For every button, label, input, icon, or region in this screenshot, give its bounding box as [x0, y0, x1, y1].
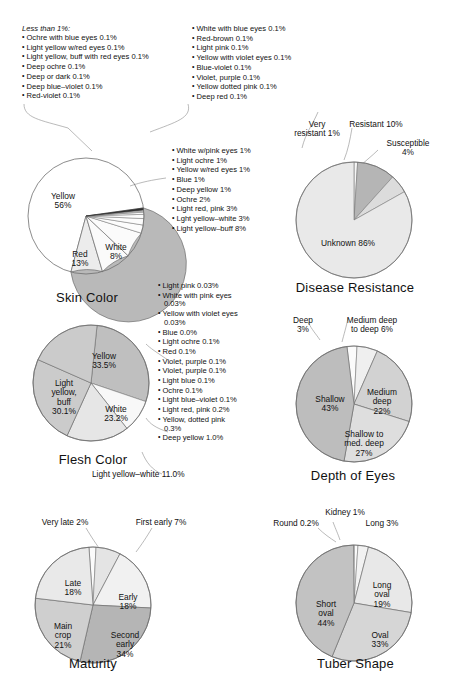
legend-item: Ochre 2%	[172, 195, 312, 205]
pie-label-late: Late 18%	[65, 579, 82, 598]
callout-resistant: Resistant 10%	[333, 120, 419, 129]
pie-label-medium-deep: Medium deep 22%	[367, 388, 397, 416]
pie-label-white: White 23.2%	[104, 405, 128, 424]
pie-label-long-oval: Long oval 19%	[373, 581, 392, 609]
pie-label-yellow: Yellow 56%	[51, 192, 75, 211]
legend-item: Light ochre 1%	[172, 156, 312, 166]
callout-first-early: First early 7%	[118, 518, 204, 527]
callout-medium-deep-to-deep: Medium deep to deep 6%	[330, 316, 414, 335]
legend-item: Ochre 0.1%	[158, 386, 294, 396]
legend-skin-minor: White w/pink eyes 1% Light ochre 1% Yell…	[172, 146, 312, 233]
callout-round: Round 0.2%	[258, 519, 334, 528]
callout-very-late: Very late 2%	[26, 518, 104, 527]
flesh-color-pie-svg	[28, 320, 158, 450]
legend-item: Light blue–violet 0.1%	[158, 395, 294, 405]
legend-item: Lght yellow–white 3%	[172, 214, 312, 224]
legend-item: Red 0.1%	[158, 347, 294, 357]
pie-label-oval: Oval 33%	[371, 631, 388, 650]
chart-disease-resistance: Unknown 86%	[292, 158, 416, 282]
callout-kidney: Kidney 1%	[312, 508, 378, 517]
chart-skin-color: Yellow 56% Red 13% White 8%	[18, 146, 163, 291]
legend-item: Light red, pink 0.2%	[158, 405, 294, 415]
pie-label-yellow: Yellow 33.5%	[92, 352, 116, 371]
pie-label-short-oval: Short oval 44%	[316, 600, 336, 628]
legend-item: Blue 1%	[172, 175, 312, 185]
legend-item: Light ochre 0.1%	[158, 337, 294, 347]
tuber-shape-pie-svg	[288, 537, 420, 669]
legend-item: White w/pink eyes 1%	[172, 146, 312, 156]
chart-title-skin-color: Skin Color	[12, 290, 162, 305]
infographic-canvas: Less than 1%: Ochre with blue eyes 0.1% …	[0, 0, 453, 685]
pie-label-light-yellow-buff: Light yellow, buff 30.1%	[51, 379, 76, 417]
chart-title-flesh-color: Flesh Color	[18, 452, 168, 467]
legend-item: Light blue 0.1%	[158, 376, 294, 386]
chart-title-disease-resistance: Disease Resistance	[280, 280, 430, 295]
chart-title-tuber-shape: Tuber Shape	[278, 656, 433, 671]
flesh-footnote: Light yellow–white 11.0%	[92, 470, 252, 479]
pie-label-unknown: Unknown 86%	[321, 239, 375, 248]
chart-depth-of-eyes: Shallow 43% Shallow to med. deep 27% Med…	[290, 340, 418, 468]
legend-item: Light yellow–buff 8%	[172, 224, 312, 234]
pie-label-main-crop: Main crop 21%	[54, 622, 72, 650]
legend-item: Violet, purple 0.1%	[158, 357, 294, 367]
legend-item: Blue 0.0%	[158, 328, 294, 338]
pie-label-shallow: Shallow 43%	[315, 395, 344, 414]
legend-item: Light pink 0.03%	[158, 281, 294, 291]
legend-item: Light red, pink 3%	[172, 204, 312, 214]
legend-item: Yellow w/red eyes 1%	[172, 165, 312, 175]
legend-item: Deep yellow 1.0%	[158, 433, 294, 443]
legend-item: Yellow with violet eyes 0.03%	[158, 309, 252, 327]
chart-title-depth-of-eyes: Depth of Eyes	[278, 468, 428, 483]
pie-label-white: White 8%	[105, 243, 126, 262]
pie-label-red: Red 13%	[72, 250, 89, 269]
legend-item: White with pink eyes 0.03%	[158, 291, 244, 309]
legend-item: Deep yellow 1%	[172, 185, 312, 195]
pie-label-second-early: Second early 34%	[111, 631, 139, 659]
callout-long: Long 3%	[355, 519, 409, 528]
legend-flesh-minor: Light pink 0.03% White with pink eyes 0.…	[158, 281, 294, 443]
pie-label-early: Early 18%	[118, 593, 137, 612]
disease-resistance-pie-svg	[292, 158, 416, 282]
legend-item: Violet, purple 0.1%	[158, 366, 294, 376]
chart-maturity: Early 18% Second early 34% Main crop 21%…	[28, 540, 158, 670]
chart-title-maturity: Maturity	[18, 656, 168, 671]
legend-item: Yellow, dotted pink 0.3%	[158, 415, 238, 433]
callout-susceptible: Susceptible 4%	[370, 139, 446, 158]
chart-tuber-shape: Long oval 19% Oval 33% Short oval 44%	[288, 537, 420, 669]
chart-flesh-color: Yellow 33.5% Light yellow, buff 30.1% Wh…	[28, 320, 158, 450]
callout-deep: Deep 3%	[280, 316, 326, 335]
skin-color-pie-svg	[18, 146, 163, 291]
pie-label-shallow-to-med-deep: Shallow to med. deep 27%	[344, 430, 384, 458]
